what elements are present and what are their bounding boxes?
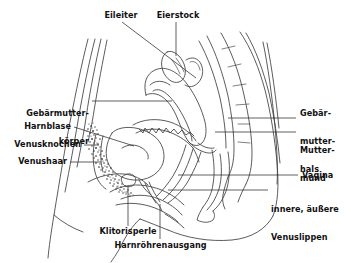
sacral-segment-mark-2 bbox=[228, 64, 241, 67]
bladder-group bbox=[106, 127, 164, 203]
label-venusknochen: Venusknochen bbox=[0, 140, 81, 149]
vaginal-canal-anterior bbox=[157, 145, 186, 196]
anatomy-diagram: .s { fill:none; stroke:#3f3f3f; stroke-w… bbox=[0, 0, 351, 263]
label-klitorisperle: Klitorisperle bbox=[92, 227, 164, 236]
label-eileiter: Eileiter bbox=[96, 11, 146, 20]
label-venuslippen-line1: innere, äußere bbox=[271, 205, 351, 214]
label-muttermund-line1: Mutter- bbox=[300, 146, 351, 155]
peritoneal-fold-lower bbox=[136, 129, 193, 148]
label-venuslippen: innere, äußere Venuslippen bbox=[271, 186, 351, 261]
label-venushaar: Venushaar bbox=[0, 157, 67, 166]
label-harnblase: Harnblase bbox=[0, 122, 71, 131]
leader-eileiter bbox=[122, 22, 196, 78]
label-eierstock: Eierstock bbox=[150, 11, 206, 20]
rectum-anterior-wall bbox=[203, 150, 214, 207]
label-vagina: Vagina bbox=[302, 171, 350, 180]
coccyx-tip-outer bbox=[238, 184, 246, 202]
fallopian-tube-inner bbox=[190, 61, 200, 70]
bladder-outline bbox=[106, 127, 164, 180]
label-venuslippen-line2: Venuslippen bbox=[271, 233, 351, 242]
labia-lower-fold bbox=[116, 203, 178, 222]
uterus-body-outline bbox=[145, 68, 206, 145]
pubic-bone-outline bbox=[93, 134, 106, 189]
lower-abdomen-contour bbox=[54, 215, 83, 232]
anus-outline bbox=[197, 207, 215, 222]
rectum-lumen bbox=[207, 154, 221, 210]
spine-line-2 bbox=[267, 43, 279, 128]
vaginal-canal-posterior bbox=[168, 152, 201, 203]
uterus-fundus-crease bbox=[150, 81, 170, 85]
pubic-bone-group bbox=[93, 134, 106, 189]
label-gebaermutterkoerper-line1: Gebärmutter- bbox=[0, 109, 89, 118]
bladder-inner-fold bbox=[122, 145, 148, 159]
sacral-segment-mark-3 bbox=[233, 84, 246, 86]
sacrum-group bbox=[199, 33, 252, 209]
external-genitalia-group bbox=[88, 174, 184, 228]
sacrum-posterior-edge bbox=[221, 33, 252, 184]
label-gebaermutterhals-line1: Gebär- bbox=[300, 109, 351, 118]
perineal-body bbox=[165, 214, 184, 228]
cervix-vagina-group bbox=[157, 141, 229, 222]
label-harnroehrenausgang: Harnröhrenausgang bbox=[108, 241, 213, 250]
ovary-texture-2 bbox=[176, 58, 184, 72]
douglas-pouch bbox=[193, 148, 199, 162]
labia-inner bbox=[121, 195, 182, 215]
sacral-segment-mark-6 bbox=[238, 142, 250, 143]
uterosacral-fold-group bbox=[133, 120, 199, 162]
sacral-segment-mark-4 bbox=[236, 104, 249, 105]
